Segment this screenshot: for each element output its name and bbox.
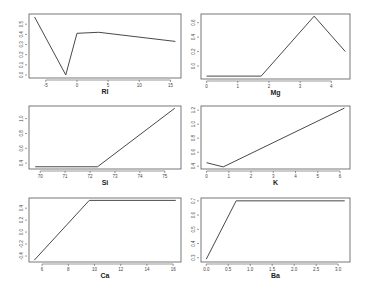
y-tick-label: 0.7	[191, 197, 196, 204]
x-tick-label: -5	[44, 83, 48, 88]
y-tick-label: 0.2	[19, 51, 24, 58]
plot-frame	[201, 198, 350, 262]
x-tick-label: 15	[168, 83, 174, 88]
y-tick-label: 0.6	[19, 145, 24, 152]
x-tick-label: 3	[299, 84, 302, 89]
x-tick-label: 8	[67, 267, 70, 272]
y-tick-label: 0.8	[19, 130, 24, 137]
y-tick-label: 0.2	[19, 217, 24, 224]
y-tick-label: 1.0	[19, 115, 24, 122]
y-tick-label: 1.0	[191, 121, 196, 128]
x-tick-label: 73	[112, 174, 118, 179]
y-tick-label: -0.4	[19, 252, 24, 260]
dependence-curve	[35, 108, 175, 167]
x-tick-label: 70	[38, 174, 44, 179]
x-tick-label: 75	[162, 174, 168, 179]
plot-frame	[29, 14, 181, 78]
x-tick-label: 6	[41, 267, 44, 272]
panel-ba: 0.00.51.01.52.02.53.00.30.40.50.60.7Ba	[191, 197, 350, 279]
x-axis-label: Ba	[271, 272, 280, 279]
x-tick-label: 5	[316, 174, 319, 179]
x-tick-label: 0	[205, 84, 208, 89]
dependence-curve	[206, 201, 344, 259]
panel-si: 7071727374750.40.60.81.0Si	[19, 106, 181, 186]
panel-k: 01234560.40.60.81.01.2K	[191, 106, 350, 186]
y-tick-label: 0.4	[191, 240, 196, 247]
dependence-curve	[207, 108, 345, 167]
x-tick-label: 16	[171, 267, 177, 272]
x-tick-label: 14	[144, 267, 150, 272]
dependence-curve	[34, 200, 176, 260]
x-tick-label: 72	[88, 174, 94, 179]
x-tick-label: 4	[294, 174, 297, 179]
panel-ri: -50510150.00.10.20.30.40.5RI	[19, 14, 181, 95]
y-tick-label: 0.4	[19, 31, 24, 38]
y-tick-label: 0.2	[191, 48, 196, 55]
dependence-curve	[35, 17, 176, 75]
y-tick-label: 0.0	[191, 62, 196, 69]
y-tick-label: 0.4	[191, 163, 196, 170]
y-tick-label: 0.8	[191, 135, 196, 142]
y-tick-label: -0.2	[19, 240, 24, 248]
x-tick-label: 0	[76, 83, 79, 88]
y-tick-label: 0.3	[191, 254, 196, 261]
x-tick-label: 12	[118, 267, 124, 272]
plot-frame	[201, 106, 350, 169]
x-tick-label: 6	[339, 174, 342, 179]
x-tick-label: 1.0	[247, 267, 254, 272]
x-tick-label: 10	[92, 267, 98, 272]
x-tick-label: 3.0	[335, 267, 342, 272]
y-tick-label: 0.0	[19, 228, 24, 235]
y-tick-label: 0.5	[19, 21, 24, 28]
y-tick-label: 0.4	[19, 205, 24, 212]
x-tick-label: 1	[228, 174, 231, 179]
y-tick-label: 0.4	[19, 159, 24, 166]
x-tick-label: 2.5	[313, 267, 320, 272]
plot-frame	[201, 14, 350, 79]
x-tick-label: 74	[137, 174, 143, 179]
x-tick-label: 10	[137, 83, 143, 88]
x-tick-label: 4	[330, 84, 333, 89]
plot-frame	[29, 106, 181, 169]
x-tick-label: 0	[205, 174, 208, 179]
panel-mg: 012340.00.20.40.6Mg	[191, 14, 350, 97]
x-axis-label: K	[273, 179, 278, 186]
x-axis-label: Ca	[101, 272, 110, 279]
plot-frame	[29, 198, 181, 262]
y-tick-label: 0.6	[191, 149, 196, 156]
dependence-curve	[207, 16, 346, 76]
x-axis-label: Mg	[270, 89, 280, 97]
y-tick-label: 0.4	[191, 33, 196, 40]
x-tick-label: 0.5	[225, 267, 232, 272]
y-tick-label: 1.2	[191, 107, 196, 114]
x-tick-label: 2.0	[291, 267, 298, 272]
x-axis-label: Si	[102, 179, 109, 186]
x-tick-label: 2	[250, 174, 253, 179]
y-tick-label: 0.5	[191, 226, 196, 233]
x-tick-label: 1	[237, 84, 240, 89]
partial-dependence-grid: -50510150.00.10.20.30.40.5RI 012340.00.2…	[0, 0, 368, 286]
y-tick-label: 0.1	[19, 61, 24, 68]
y-tick-label: 0.6	[191, 19, 196, 26]
y-tick-label: 0.6	[191, 211, 196, 218]
x-tick-label: 71	[63, 174, 69, 179]
x-tick-label: 0.0	[203, 267, 210, 272]
y-tick-label: 0.0	[19, 71, 24, 78]
y-tick-label: 0.3	[19, 41, 24, 48]
x-axis-label: RI	[102, 88, 109, 95]
panel-ca: 6810121416-0.4-0.20.00.20.4Ca	[19, 198, 181, 279]
